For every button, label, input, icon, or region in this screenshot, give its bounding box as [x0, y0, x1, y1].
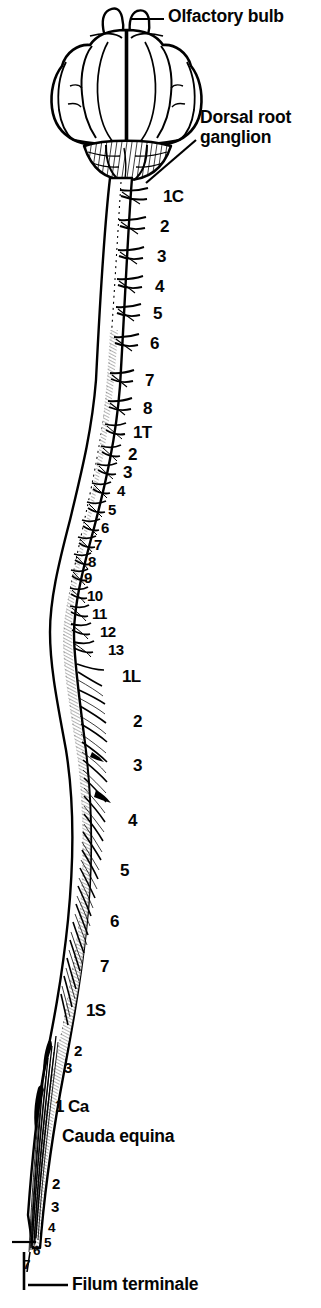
callout-dorsal-root-ganglion: Dorsal root ganglion — [200, 108, 291, 147]
segment-label-l6: 6 — [110, 913, 119, 930]
cerebral-hemispheres — [51, 30, 201, 146]
callout-filum-terminale: Filum terminale — [72, 1276, 198, 1294]
spinal-cord — [28, 178, 132, 1248]
segment-label-l5: 5 — [120, 862, 129, 879]
segment-label-t8: 8 — [88, 554, 96, 569]
segment-label-t13: 13 — [108, 642, 124, 657]
callout-dorsal-root-ganglion-line2: ganglion — [200, 128, 291, 148]
segment-label-t1: 1T — [133, 424, 152, 441]
segment-label-t7: 7 — [94, 537, 102, 552]
segment-label-l3: 3 — [133, 757, 142, 774]
segment-label-l1: 1L — [122, 668, 141, 685]
segment-label-c8: 8 — [143, 400, 152, 417]
segment-label-t11: 11 — [92, 606, 107, 621]
callout-cauda-equina: Cauda equina — [62, 1128, 174, 1146]
segment-label-l4: 4 — [128, 812, 137, 829]
segment-label-c4: 4 — [155, 278, 164, 295]
segment-label-t10: 10 — [87, 588, 103, 603]
segment-label-t9: 9 — [84, 570, 92, 585]
segment-label-t12: 12 — [100, 624, 116, 639]
segment-label-s1: 1S — [86, 1002, 106, 1019]
segment-label-t3: 3 — [123, 464, 132, 481]
segment-label-t2: 2 — [128, 446, 137, 463]
segment-label-s3: 3 — [64, 1060, 72, 1075]
segment-label-c6: 6 — [150, 335, 159, 352]
segment-label-ca6: 6 — [33, 1244, 40, 1258]
segment-label-ca2: 2 — [52, 1176, 60, 1191]
segment-label-ca1: 1 Ca — [55, 1098, 89, 1115]
segment-label-c3: 3 — [157, 248, 166, 265]
segment-label-ca5: 5 — [44, 1236, 51, 1250]
segment-label-c7: 7 — [145, 372, 154, 389]
segment-label-ca7: 7 — [23, 1258, 30, 1272]
callout-olfactory-bulb: Olfactory bulb — [168, 8, 284, 26]
cns-illustration — [0, 0, 321, 1308]
segment-label-t4: 4 — [117, 483, 125, 498]
segment-label-l7: 7 — [100, 958, 109, 975]
segment-label-ca4: 4 — [48, 1221, 55, 1235]
segment-label-l2: 2 — [133, 713, 142, 730]
segment-label-t5: 5 — [108, 502, 116, 517]
segment-label-c5: 5 — [153, 305, 162, 322]
segment-label-c2: 2 — [160, 218, 169, 235]
segment-label-ca3: 3 — [51, 1199, 59, 1214]
segment-label-c1: 1C — [163, 188, 184, 205]
cns-anatomy-figure: Olfactory bulb Dorsal root ganglion Caud… — [0, 0, 321, 1308]
callout-dorsal-root-ganglion-line1: Dorsal root — [200, 108, 291, 128]
segment-label-t6: 6 — [101, 520, 109, 535]
segment-label-s2: 2 — [74, 1043, 82, 1058]
